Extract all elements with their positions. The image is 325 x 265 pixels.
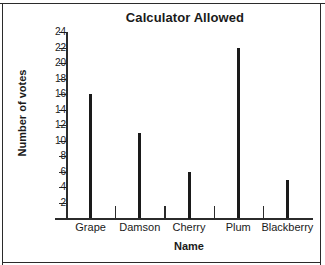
y-tick-label: 24 [44, 25, 66, 38]
figure-border-top [0, 3, 325, 4]
x-tick-mark [214, 206, 215, 219]
chart-title: Calculator Allowed [60, 10, 310, 25]
y-tick-label-wrap: 24 [0, 32, 66, 33]
x-category-label: Blackberry [261, 221, 313, 233]
y-tick-label: 18 [44, 72, 66, 85]
x-tick-mark [263, 206, 264, 219]
y-tick-label: 2 [44, 196, 66, 209]
bar [89, 94, 92, 218]
x-category-label: Damson [119, 221, 160, 233]
figure-border-right [320, 3, 321, 265]
bar [237, 48, 240, 219]
y-tick-label-wrap: 6 [0, 172, 66, 173]
y-tick-label: 20 [44, 56, 66, 69]
bar [286, 180, 289, 219]
x-category-label: Plum [226, 221, 251, 233]
y-tick-label-wrap: 8 [0, 156, 66, 157]
x-axis-line [55, 218, 313, 220]
y-tick-label-wrap: 14 [0, 110, 66, 111]
y-tick-label: 10 [44, 134, 66, 147]
y-tick-label: 14 [44, 103, 66, 116]
x-tick-mark [164, 206, 165, 219]
y-tick-label-wrap: 4 [0, 187, 66, 188]
y-tick-label-wrap: 2 [0, 203, 66, 204]
y-axis-line [66, 32, 68, 219]
y-tick-label: 8 [44, 149, 66, 162]
bar [138, 133, 141, 218]
y-tick-label: 6 [44, 165, 66, 178]
x-tick-mark [115, 206, 116, 219]
bar [188, 172, 191, 219]
y-tick-label: 4 [44, 180, 66, 193]
y-tick-label-wrap: 10 [0, 141, 66, 142]
figure-border-left [2, 3, 3, 265]
figure-border-bottom [2, 262, 321, 263]
y-tick-label-wrap: 12 [0, 125, 66, 126]
x-axis-label: Name [66, 240, 312, 252]
y-tick-label-wrap: 18 [0, 79, 66, 80]
y-tick-label: 22 [44, 41, 66, 54]
y-tick-label-wrap: 22 [0, 48, 66, 49]
x-category-label: Grape [75, 221, 106, 233]
y-tick-label-wrap: 16 [0, 94, 66, 95]
chart-figure: Calculator Allowed Number of votes 24222… [0, 0, 325, 265]
y-tick-label: 12 [44, 118, 66, 131]
y-tick-label: 16 [44, 87, 66, 100]
x-category-label: Cherry [172, 221, 205, 233]
y-tick-label-wrap: 20 [0, 63, 66, 64]
y-axis-label: Number of votes [16, 53, 28, 173]
x-tick-mark [66, 206, 67, 219]
